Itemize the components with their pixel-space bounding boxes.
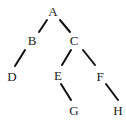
node-a: A	[48, 4, 58, 19]
edge-c-e	[62, 50, 71, 65]
edge-e-g	[61, 84, 71, 100]
edge-f-h	[106, 84, 118, 100]
node-b: B	[28, 33, 37, 48]
node-f: F	[96, 69, 103, 84]
node-h: H	[113, 103, 122, 118]
edge-a-b	[39, 20, 47, 32]
edge-c-f	[83, 50, 95, 65]
node-e: E	[54, 68, 62, 83]
node-g: G	[69, 103, 78, 118]
edge-b-d	[15, 50, 25, 66]
node-c: C	[70, 33, 79, 48]
node-d: D	[7, 69, 16, 84]
tree-svg: ABCDEFGH	[0, 0, 126, 122]
edges	[15, 20, 118, 100]
edge-a-c	[60, 20, 70, 32]
tree-diagram: ABCDEFGH	[0, 0, 126, 122]
